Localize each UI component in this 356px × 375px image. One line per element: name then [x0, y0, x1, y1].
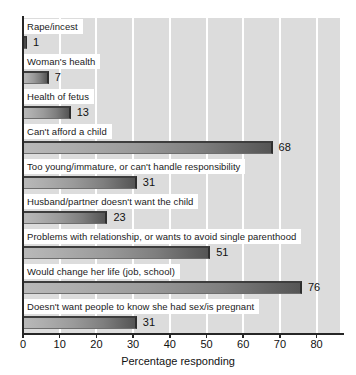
- bar-value-label: 1: [33, 37, 39, 48]
- category-label-band: Health of fetus: [23, 89, 94, 104]
- x-tick-label-20: 20: [90, 339, 102, 350]
- category-label: Would change her life (job, school): [27, 267, 175, 277]
- bar: [23, 281, 302, 294]
- bar-row: Can't afford a child68: [23, 124, 340, 159]
- bar-fill: [23, 246, 210, 259]
- x-tick-label-0: 0: [20, 339, 26, 350]
- category-label-band: Doesn't want people to know she had sex/…: [23, 299, 259, 314]
- bar-row: Health of fetus13: [23, 89, 340, 124]
- bar-row: Rape/incest1: [23, 19, 340, 54]
- bar-value-label: 13: [77, 107, 89, 118]
- bar: [23, 176, 137, 189]
- bar-chart: Rape/incest1Woman's health7Health of fet…: [0, 0, 356, 375]
- bar: [23, 246, 210, 259]
- bar-value-label: 51: [216, 247, 228, 258]
- category-label: Health of fetus: [27, 92, 89, 102]
- category-label-band: Too young/immature, or can't handle resp…: [23, 159, 245, 174]
- plot-area: Rape/incest1Woman's health7Health of fet…: [23, 18, 340, 333]
- bar-fill: [23, 141, 273, 154]
- bar-fill: [23, 281, 302, 294]
- bar: [23, 106, 71, 119]
- category-label-band: Husband/partner doesn't want the child: [23, 194, 198, 209]
- category-label-band: Rape/incest: [23, 19, 83, 34]
- bar: [23, 211, 107, 224]
- category-label-band: Can't afford a child: [23, 124, 112, 139]
- bar-fill: [23, 71, 49, 84]
- y-axis-line: [22, 16, 24, 335]
- category-label-band: Problems with relationship, or wants to …: [23, 229, 301, 244]
- x-tick-label-80: 80: [310, 339, 322, 350]
- bar-row: Would change her life (job, school)76: [23, 264, 340, 299]
- x-axis-title: Percentage responding: [0, 356, 356, 367]
- bar: [23, 316, 137, 329]
- category-label: Problems with relationship, or wants to …: [27, 232, 296, 242]
- bar: [23, 71, 49, 84]
- bar-value-label: 23: [113, 212, 125, 223]
- category-label: Husband/partner doesn't want the child: [27, 197, 193, 207]
- x-axis-line: [22, 333, 344, 335]
- category-label: Woman's health: [27, 57, 95, 67]
- category-label: Too young/immature, or can't handle resp…: [27, 162, 240, 172]
- x-tick-label-40: 40: [164, 339, 176, 350]
- bar-row: Problems with relationship, or wants to …: [23, 229, 340, 264]
- x-tick-label-30: 30: [127, 339, 139, 350]
- bar-row: Doesn't want people to know she had sex/…: [23, 299, 340, 333]
- bar-value-label: 7: [55, 72, 61, 83]
- bar-value-label: 68: [279, 142, 291, 153]
- bar: [23, 36, 27, 49]
- category-label-band: Woman's health: [23, 54, 100, 69]
- category-label: Rape/incest: [27, 22, 78, 32]
- bar-fill: [23, 316, 137, 329]
- category-label: Doesn't want people to know she had sex/…: [27, 302, 254, 312]
- x-tick-label-50: 50: [200, 339, 212, 350]
- bar-row: Husband/partner doesn't want the child23: [23, 194, 340, 229]
- bar-row: Woman's health7: [23, 54, 340, 89]
- category-label: Can't afford a child: [27, 127, 107, 137]
- bar-value-label: 31: [143, 317, 155, 328]
- bar-fill: [23, 211, 107, 224]
- bar-value-label: 76: [308, 282, 320, 293]
- x-tick-label-70: 70: [274, 339, 286, 350]
- bar-fill: [23, 36, 27, 49]
- bar-fill: [23, 106, 71, 119]
- bar-fill: [23, 176, 137, 189]
- x-tick-label-60: 60: [237, 339, 249, 350]
- bar: [23, 141, 273, 154]
- bar-value-label: 31: [143, 177, 155, 188]
- x-tick-label-10: 10: [54, 339, 66, 350]
- category-label-band: Would change her life (job, school): [23, 264, 180, 279]
- bar-row: Too young/immature, or can't handle resp…: [23, 159, 340, 194]
